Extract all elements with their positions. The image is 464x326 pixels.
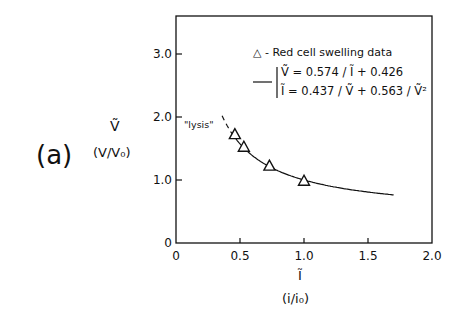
data-point-triangle <box>229 129 240 139</box>
legend-equation-2: Ĩ = 0.437 / Ṽ + 0.563 / Ṽ² <box>281 84 427 98</box>
y-tick-label: 1.0 <box>153 173 172 187</box>
panel-label: (a) <box>36 140 72 170</box>
x-tick-label: 2.0 <box>422 249 441 263</box>
x-axis-symbol: Ĩ <box>298 268 302 283</box>
legend-equation-1: Ṽ = 0.574 / Ĩ + 0.426 <box>281 65 403 79</box>
lysis-annotation: "lysis" <box>184 119 214 130</box>
y-axis-symbol: Ṽ <box>110 118 120 134</box>
x-tick-label: 1.0 <box>294 249 313 263</box>
x-tick-label: 0 <box>172 249 180 263</box>
x-tick-label: 0.5 <box>230 249 249 263</box>
x-axis-label: (i/i₀) <box>282 291 309 306</box>
y-tick-label: 2.0 <box>153 110 172 124</box>
y-tick-label: 3.0 <box>153 47 172 61</box>
x-tick-label: 1.5 <box>358 249 377 263</box>
legend-marker-entry: △ - Red cell swelling data <box>253 46 392 59</box>
y-tick-label: 0 <box>164 236 172 250</box>
fit-curve <box>234 136 394 195</box>
data-point-triangle <box>299 175 310 185</box>
data-point-triangle <box>238 141 249 151</box>
y-axis-label: (V/V₀) <box>93 145 131 160</box>
